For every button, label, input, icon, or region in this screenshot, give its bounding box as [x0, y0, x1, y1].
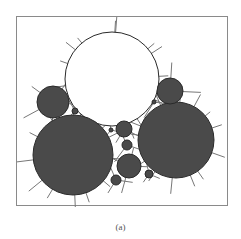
particle-medium-dark-left	[37, 86, 69, 118]
particle-small-center-top	[116, 121, 132, 137]
particle-tiny-center	[109, 128, 113, 132]
particle-medium-center-bottom	[117, 154, 141, 178]
particle-large-dark-left	[33, 115, 113, 195]
particle-large-white	[65, 32, 159, 126]
particle-medium-dark-right	[157, 78, 183, 104]
particle-tiny-left	[72, 108, 78, 114]
particle-large-dark-right	[138, 102, 214, 178]
particle-small-bottom-right	[145, 170, 153, 178]
particle-tiny-right	[152, 100, 156, 104]
particle-small-center-mid	[122, 140, 132, 150]
figure-panel	[16, 16, 228, 206]
particle-fiber-diagram	[17, 17, 229, 207]
particle-small-bottom-left	[111, 175, 121, 185]
figure-caption: (a)	[0, 222, 241, 232]
